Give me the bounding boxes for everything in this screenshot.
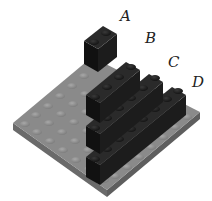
label-c: C	[168, 55, 179, 70]
label-a: A	[120, 9, 131, 24]
label-d: D	[192, 75, 204, 90]
lego-diagram	[0, 0, 212, 201]
brick-a	[84, 26, 117, 72]
label-b: B	[145, 31, 156, 46]
